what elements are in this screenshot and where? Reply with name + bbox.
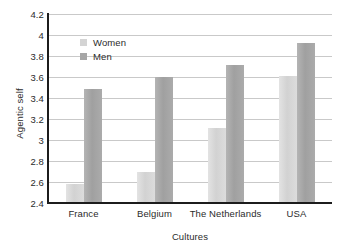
legend-item-men: Men (80, 50, 126, 62)
y-tick-label: 2.4 (2, 198, 44, 209)
x-tick-label: Belgium (137, 208, 172, 219)
y-tick-label: 3.6 (2, 72, 44, 83)
y-tick-label: 4.2 (2, 9, 44, 20)
bar-men-the-netherlands (226, 65, 244, 203)
x-tick-label: France (68, 208, 98, 219)
bar-women-usa (279, 76, 297, 203)
legend-label: Men (93, 51, 112, 62)
y-axis-tick-labels: 2.42.62.833.23.43.63.844.2 (0, 14, 44, 203)
y-axis-line (47, 13, 49, 204)
x-tick-label: The Netherlands (190, 208, 262, 219)
bar-women-france (66, 184, 84, 203)
y-tick-label: 2.6 (2, 177, 44, 188)
bar-men-belgium (155, 77, 173, 203)
y-tick-label: 3 (2, 135, 44, 146)
gridline (48, 14, 332, 15)
x-tick-label: USA (287, 208, 307, 219)
y-tick-label: 3.2 (2, 114, 44, 125)
bar-women-belgium (137, 172, 155, 204)
legend-label: Women (93, 37, 126, 48)
bar-women-the-netherlands (208, 128, 226, 203)
chart-legend: WomenMen (80, 36, 126, 64)
x-axis-title: Cultures (48, 231, 332, 242)
y-tick-label: 2.8 (2, 156, 44, 167)
y-tick-label: 4 (2, 30, 44, 41)
y-tick-label: 3.8 (2, 51, 44, 62)
legend-swatch-icon (80, 39, 87, 46)
x-axis-line (47, 202, 332, 204)
legend-item-women: Women (80, 36, 126, 48)
y-tick-label: 3.4 (2, 93, 44, 104)
bar-chart: Agentic self 2.42.62.833.23.43.63.844.2 … (0, 0, 342, 252)
legend-swatch-icon (80, 53, 87, 60)
bar-men-usa (297, 43, 315, 203)
bar-men-france (84, 89, 102, 203)
